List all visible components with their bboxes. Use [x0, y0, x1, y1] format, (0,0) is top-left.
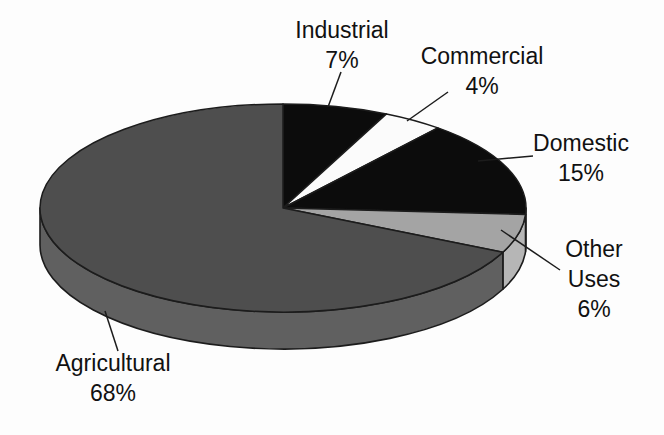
label-agricultural-name: Agricultural	[55, 348, 170, 378]
label-domestic-name: Domestic	[533, 128, 629, 158]
label-industrial: Industrial 7%	[295, 15, 388, 75]
label-agricultural-pct: 68%	[55, 378, 170, 408]
leader-line-industrial	[328, 72, 341, 107]
label-domestic-pct: 15%	[533, 158, 629, 188]
label-industrial-name: Industrial	[295, 15, 388, 45]
label-commercial-pct: 4%	[421, 71, 544, 101]
label-commercial-name: Commercial	[421, 41, 544, 71]
label-other-uses-name-2: Uses	[565, 264, 623, 294]
label-industrial-pct: 7%	[295, 45, 388, 75]
label-other-uses-pct: 6%	[565, 294, 623, 324]
label-other-uses: Other Uses 6%	[565, 234, 623, 324]
label-agricultural: Agricultural 68%	[55, 348, 170, 408]
pie-chart: Industrial 7% Commercial 4% Domestic 15%…	[0, 0, 664, 435]
label-other-uses-name-1: Other	[565, 234, 623, 264]
label-commercial: Commercial 4%	[421, 41, 544, 101]
label-domestic: Domestic 15%	[533, 128, 629, 188]
